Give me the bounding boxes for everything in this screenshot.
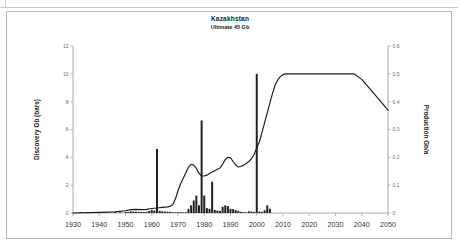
discovery-bar — [216, 211, 218, 214]
axis-titles: Discovery Gb (bars)Production Gb/a — [33, 99, 430, 160]
discovery-bar — [245, 212, 247, 213]
discovery-bar — [140, 212, 142, 213]
discovery-bar — [251, 212, 253, 213]
discovery-bar — [177, 212, 179, 213]
y-axis-right-title: Production Gb/a — [423, 105, 430, 155]
discovery-bar — [156, 149, 158, 213]
chart-panel: Kazakhstan Ultimate 45 Gb 024681012 00.1… — [6, 11, 452, 239]
window-top-edge — [0, 0, 458, 8]
production-curve — [73, 74, 388, 213]
x-axis-tick-label: 1990 — [223, 220, 239, 229]
discovery-bar — [185, 212, 187, 213]
discovery-bar — [161, 211, 163, 213]
discovery-bar — [190, 205, 192, 213]
y-axis-left: 024681012 — [63, 43, 73, 216]
y-axis-right-tick-label: 0 — [393, 210, 396, 216]
discovery-bar — [237, 211, 239, 213]
discovery-bar — [143, 212, 145, 213]
discovery-bar — [198, 205, 200, 213]
discovery-bar — [227, 206, 229, 213]
discovery-bar — [125, 212, 127, 213]
y-axis-right: 00.10.20.30.40.50.6 — [388, 43, 400, 216]
discovery-bar — [148, 211, 150, 213]
y-axis-left-title: Discovery Gb (bars) — [33, 99, 41, 160]
x-axis-tick-label: 2030 — [328, 220, 344, 229]
discovery-bar — [219, 211, 221, 213]
x-axis-tick-label: 2010 — [275, 220, 291, 229]
y-axis-left-tick-label: 10 — [63, 71, 69, 77]
discovery-bar — [127, 212, 129, 213]
y-axis-left-tick-label: 2 — [66, 182, 69, 188]
discovery-bar — [206, 208, 208, 213]
x-axis-tick-label: 1930 — [65, 220, 81, 229]
discovery-bar — [248, 211, 250, 213]
y-axis-right-tick-label: 0.6 — [393, 43, 400, 49]
discovery-bar — [188, 209, 190, 213]
discovery-bar — [153, 211, 155, 214]
discovery-bar — [266, 205, 268, 213]
discovery-bar — [180, 212, 182, 213]
y-axis-left-tick-label: 4 — [66, 154, 69, 160]
discovery-bar — [130, 211, 132, 213]
discovery-bar — [135, 212, 137, 213]
x-axis-tick-label: 1940 — [91, 220, 107, 229]
discovery-bar — [151, 210, 153, 213]
discovery-bar — [167, 212, 169, 213]
discovery-bar — [243, 212, 245, 213]
y-axis-right-tick-label: 0.3 — [393, 126, 400, 132]
discovery-bar — [203, 196, 205, 213]
x-axis-tick-label: 1950 — [118, 220, 134, 229]
discovery-bar — [193, 200, 195, 213]
x-axis-tick-label: 2040 — [354, 220, 370, 229]
discovery-bar — [119, 212, 121, 213]
discovery-bar — [232, 209, 234, 213]
y-axis-left-tick-label: 12 — [63, 43, 69, 49]
discovery-bar — [209, 209, 211, 213]
x-axis-tick-label: 1980 — [196, 220, 212, 229]
discovery-bar — [211, 182, 213, 213]
y-axis-left-tick-label: 6 — [66, 126, 69, 132]
discovery-bar — [174, 212, 176, 213]
discovery-bar — [138, 212, 140, 213]
discovery-bar — [195, 196, 197, 213]
production-line-series — [73, 74, 388, 213]
discovery-bar — [164, 212, 166, 213]
discovery-bar — [261, 212, 263, 213]
discovery-production-chart: 024681012 00.10.20.30.40.50.6 1930194019… — [7, 12, 453, 240]
x-axis-tick-label: 2020 — [301, 220, 317, 229]
discovery-bars-series — [80, 74, 271, 213]
y-axis-left-tick-label: 0 — [66, 210, 69, 216]
discovery-bar — [235, 210, 237, 213]
y-axis-right-tick-label: 0.4 — [393, 99, 400, 105]
x-axis-tick-label: 2050 — [380, 220, 396, 229]
discovery-bar — [182, 212, 184, 213]
plot-area: 024681012 00.10.20.30.40.50.6 1930194019… — [7, 12, 453, 240]
discovery-bar — [172, 212, 174, 213]
y-axis-right-tick-label: 0.1 — [393, 182, 400, 188]
discovery-bar — [258, 212, 260, 213]
window-top-edge-divider — [0, 0, 6, 8]
discovery-bar — [230, 209, 232, 213]
discovery-bar — [222, 207, 224, 213]
discovery-bar — [169, 212, 171, 213]
discovery-bar — [201, 120, 203, 213]
screenshot-root: Kazakhstan Ultimate 45 Gb 024681012 00.1… — [0, 0, 458, 245]
y-axis-right-tick-label: 0.5 — [393, 71, 400, 77]
discovery-bar — [146, 212, 148, 213]
discovery-bar — [224, 205, 226, 213]
x-axis-tick-label: 2000 — [249, 220, 265, 229]
discovery-bar — [269, 209, 271, 213]
discovery-bar — [256, 74, 258, 213]
discovery-bar — [240, 212, 242, 213]
x-axis-tick-label: 1970 — [170, 220, 186, 229]
discovery-bar — [214, 210, 216, 213]
discovery-bar — [264, 210, 266, 213]
y-axis-right-tick-label: 0.2 — [393, 154, 400, 160]
discovery-bar — [159, 211, 161, 213]
discovery-bar — [253, 212, 255, 213]
discovery-bar — [132, 212, 134, 213]
x-axis-tick-label: 1960 — [144, 220, 160, 229]
x-axis: 1930194019501960197019801990200020102020… — [65, 213, 396, 229]
y-axis-left-tick-label: 8 — [66, 99, 69, 105]
